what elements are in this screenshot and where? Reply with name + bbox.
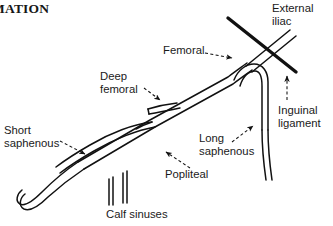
- label-deep-femoral-line2: femoral: [100, 83, 138, 95]
- deep-calf-vessel: [17, 162, 84, 210]
- label-short-saphenous: Shortsaphenous: [4, 124, 59, 149]
- long-saphenous-junction-loop: [234, 64, 268, 130]
- label-inguinal-ligament-line1: Inguinal: [278, 104, 318, 116]
- label-short-saphenous-line1: Short: [4, 124, 31, 136]
- leader-femoral: [205, 53, 232, 58]
- label-external-iliac-line1: External: [272, 2, 313, 14]
- short-saphenous-vessel: [56, 122, 155, 173]
- label-popliteal: Popliteal: [165, 168, 208, 181]
- calf-sinuses-vessels: [109, 171, 127, 205]
- label-deep-femoral-line1: Deep: [100, 70, 127, 82]
- label-long-saphenous: Longsaphenous: [199, 132, 254, 157]
- leader-short-saphenous: [60, 141, 85, 154]
- leader-deep-femoral: [144, 88, 160, 100]
- label-inguinal-ligament-line2: ligament: [278, 117, 321, 129]
- label-deep-femoral: Deepfemoral: [100, 70, 138, 95]
- label-inguinal-ligament: Inguinalligament: [278, 104, 321, 129]
- leader-popliteal: [166, 152, 190, 168]
- label-short-saphenous-line2: saphenous: [4, 137, 59, 149]
- long-saphenous-vessel: [262, 130, 272, 180]
- label-long-saphenous-line1: Long: [199, 132, 224, 144]
- label-long-saphenous-line2: saphenous: [199, 145, 254, 157]
- figure-panel: MATION: [0, 0, 333, 226]
- label-calf-sinuses: Calf sinuses: [106, 208, 168, 221]
- label-femoral: Femoral: [163, 44, 204, 57]
- label-external-iliac: Externaliliac: [272, 2, 313, 27]
- label-external-iliac-line2: iliac: [272, 15, 291, 27]
